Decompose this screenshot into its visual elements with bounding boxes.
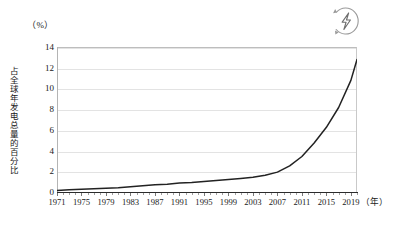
x-tick-mark-major <box>228 193 229 196</box>
y-tick-label: 14 <box>26 43 54 52</box>
x-tick-label: 2007 <box>269 197 286 207</box>
x-tick-mark-minor <box>186 193 187 195</box>
x-tick-mark-major <box>351 193 352 196</box>
x-tick-label: 1979 <box>97 197 114 207</box>
x-tick-mark-minor <box>216 193 217 195</box>
x-tick-mark-minor <box>94 193 95 195</box>
x-tick-mark-major <box>253 193 254 196</box>
x-tick-mark-major <box>130 193 131 196</box>
x-tick-mark-minor <box>247 193 248 195</box>
x-tick-mark-minor <box>241 193 242 195</box>
renewable-energy-bolt-icon <box>327 3 365 39</box>
x-tick-mark-minor <box>198 193 199 195</box>
x-tick-label: 2003 <box>244 197 261 207</box>
x-tick-mark-minor <box>345 193 346 195</box>
x-tick-mark-major <box>326 193 327 196</box>
series-layer <box>57 47 357 193</box>
x-tick-mark-minor <box>284 193 285 195</box>
x-tick-label: 1999 <box>220 197 237 207</box>
x-tick-mark-major <box>155 193 156 196</box>
x-tick-mark-minor <box>210 193 211 195</box>
x-tick-mark-minor <box>173 193 174 195</box>
x-tick-mark-minor <box>192 193 193 195</box>
x-tick-mark-minor <box>271 193 272 195</box>
x-tick-mark-major <box>277 193 278 196</box>
x-tick-mark-minor <box>149 193 150 195</box>
x-tick-mark-minor <box>118 193 119 195</box>
y-tick-label: 6 <box>26 126 54 135</box>
x-tick-mark-minor <box>75 193 76 195</box>
series-line-renewable-share <box>57 47 357 193</box>
x-tick-mark-minor <box>296 193 297 195</box>
x-tick-mark-major <box>57 193 58 196</box>
x-axis-tick-labels: 1971197519791983198719911995199920032007… <box>0 197 396 213</box>
x-tick-label: 1987 <box>146 197 163 207</box>
x-tick-mark-minor <box>333 193 334 195</box>
x-tick-mark-minor <box>112 193 113 195</box>
x-tick-mark-minor <box>143 193 144 195</box>
x-tick-label: 2019 <box>342 197 359 207</box>
x-tick-mark-minor <box>357 193 358 195</box>
y-tick-label: 10 <box>26 84 54 93</box>
renewable-share-line-chart: （%） 占全球年发电总量的百分比 14 12 10 8 6 4 2 0 1971… <box>0 0 396 239</box>
x-tick-label: 1975 <box>73 197 90 207</box>
x-tick-mark-major <box>179 193 180 196</box>
x-tick-label: 1991 <box>171 197 188 207</box>
y-tick-label: 2 <box>26 167 54 176</box>
x-tick-mark-major <box>204 193 205 196</box>
x-tick-label: 1983 <box>122 197 139 207</box>
x-tick-mark-minor <box>308 193 309 195</box>
y-axis-title: 占全球年发电总量的百分比 <box>6 47 20 194</box>
x-tick-mark-minor <box>167 193 168 195</box>
x-tick-mark-minor <box>88 193 89 195</box>
x-axis-unit-label: （年） <box>361 197 388 207</box>
x-tick-label: 1971 <box>48 197 65 207</box>
x-tick-mark-minor <box>69 193 70 195</box>
x-tick-mark-minor <box>235 193 236 195</box>
x-tick-label: 2015 <box>318 197 335 207</box>
y-tick-label: 12 <box>26 64 54 73</box>
y-tick-label: 8 <box>26 105 54 114</box>
x-tick-mark-minor <box>100 193 101 195</box>
x-tick-mark-minor <box>137 193 138 195</box>
x-tick-mark-minor <box>265 193 266 195</box>
x-tick-mark-minor <box>320 193 321 195</box>
x-tick-label: 2011 <box>293 197 310 207</box>
x-tick-mark-minor <box>339 193 340 195</box>
x-tick-label: 1995 <box>195 197 212 207</box>
y-tick-label: 0 <box>26 188 54 197</box>
x-tick-mark-minor <box>161 193 162 195</box>
y-tick-label: 4 <box>26 147 54 156</box>
x-tick-mark-major <box>106 193 107 196</box>
x-tick-mark-minor <box>63 193 64 195</box>
x-tick-mark-major <box>302 193 303 196</box>
x-tick-mark-minor <box>124 193 125 195</box>
x-tick-mark-minor <box>290 193 291 195</box>
x-tick-mark-minor <box>314 193 315 195</box>
x-tick-mark-major <box>81 193 82 196</box>
x-tick-mark-minor <box>222 193 223 195</box>
x-tick-mark-minor <box>259 193 260 195</box>
